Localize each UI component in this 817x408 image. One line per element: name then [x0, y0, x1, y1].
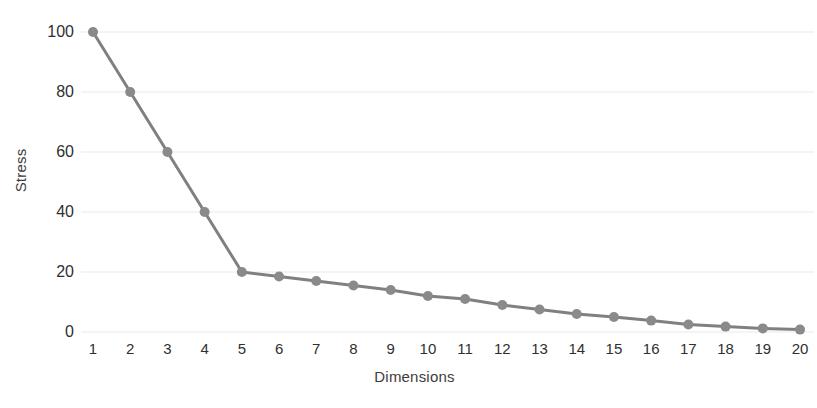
x-axis-tick-label: 20	[792, 340, 809, 357]
data-point-marker	[162, 147, 172, 157]
series-line-path	[93, 32, 800, 330]
x-axis-tick-label: 12	[494, 340, 511, 357]
data-point-marker	[386, 285, 396, 295]
x-axis-tick-label: 3	[163, 340, 171, 357]
x-axis-title: Dimensions	[0, 368, 817, 385]
series-line	[93, 32, 800, 330]
x-axis-tick-label: 6	[275, 340, 283, 357]
x-axis-tick-label: 5	[238, 340, 246, 357]
data-point-marker	[88, 27, 98, 37]
x-axis-tick-label: 1	[89, 340, 97, 357]
data-point-marker	[795, 325, 805, 335]
x-axis-tick-label: 18	[717, 340, 734, 357]
data-point-marker	[274, 272, 284, 282]
data-point-marker	[572, 309, 582, 319]
data-point-marker	[311, 276, 321, 286]
x-axis-tick-label: 7	[312, 340, 320, 357]
x-axis-tick-label: 4	[200, 340, 208, 357]
data-point-marker	[348, 281, 358, 291]
x-axis-tick-label: 11	[457, 340, 473, 357]
x-axis-tick-label: 15	[606, 340, 623, 357]
x-axis-tick-label: 9	[387, 340, 395, 357]
data-point-marker	[423, 291, 433, 301]
data-point-marker	[535, 305, 545, 315]
data-point-marker	[721, 322, 731, 332]
x-axis-tick-label: 19	[754, 340, 771, 357]
x-axis-tick-label: 8	[349, 340, 357, 357]
data-point-marker	[683, 320, 693, 330]
data-point-marker	[460, 294, 470, 304]
data-point-marker	[497, 300, 507, 310]
x-axis-tick-label: 10	[420, 340, 437, 357]
x-axis-tick-label: 16	[643, 340, 660, 357]
data-point-marker	[237, 267, 247, 277]
data-point-marker	[609, 312, 619, 322]
data-point-marker	[125, 87, 135, 97]
x-axis-tick-label: 13	[531, 340, 548, 357]
x-axis-tick-labels: 1234567891011121314151617181920	[0, 340, 817, 366]
series-markers	[88, 27, 805, 335]
x-axis-tick-label: 2	[126, 340, 134, 357]
data-point-marker	[758, 323, 768, 333]
x-axis-tick-label: 14	[568, 340, 585, 357]
data-point-marker	[646, 316, 656, 326]
x-axis-title-label: Dimensions	[374, 368, 454, 385]
gridlines	[81, 32, 814, 332]
scree-plot-chart: Stress 020406080100 12345678910111213141…	[0, 0, 817, 408]
x-axis-tick-label: 17	[680, 340, 697, 357]
data-point-marker	[200, 207, 210, 217]
